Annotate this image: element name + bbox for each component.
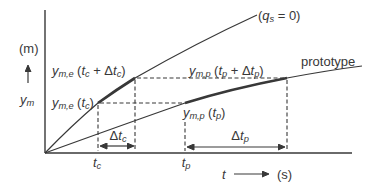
- label-var-sub: m,e: [59, 69, 74, 79]
- model-label-variable: q: [262, 8, 269, 23]
- prototype-label-text: prototype: [301, 54, 355, 69]
- scour-time-scale-figure: (m) ym (qs = 0) prototype ym,e (tc + Δtc…: [0, 0, 374, 195]
- tc-tick-label: tc: [93, 155, 101, 174]
- model-label-equals-zero: = 0): [274, 8, 300, 23]
- tick-var-sub: c: [97, 161, 101, 171]
- y-axis-symbol-label: ym: [20, 92, 34, 111]
- label-close: ): [259, 63, 263, 78]
- ym-p-tp-plus-dtp-label: ym,p (tp + Δtp): [189, 63, 264, 82]
- delta-symbol: Δ: [231, 128, 240, 143]
- tick-var-sub: p: [185, 161, 190, 171]
- ym-e-tc-label: ym,e (tc): [52, 95, 94, 114]
- label-close: ): [121, 63, 125, 78]
- x-axis-symbol-text: t: [222, 167, 226, 182]
- y-axis-symbol-subscript: m: [27, 98, 35, 108]
- model-curve-label: (qs = 0): [258, 8, 300, 27]
- delta-var-sub: c: [122, 134, 126, 144]
- prototype-curve-label: prototype: [301, 54, 355, 69]
- y-axis-unit-label: (m): [19, 41, 39, 56]
- delta-tc-label: Δtc: [110, 128, 127, 147]
- label-close: ): [90, 95, 94, 110]
- delta-tp-label: Δtp: [231, 128, 248, 147]
- label-var-sub: m,p: [196, 69, 211, 79]
- y-axis-unit-text: (m): [19, 41, 39, 56]
- x-axis-unit-text: (s): [277, 167, 292, 182]
- x-axis-unit-label: (s): [277, 167, 292, 182]
- label-plus-delta: + Δ: [227, 63, 251, 78]
- label-plus-delta: + Δ: [90, 63, 114, 78]
- label-var-sub: m,e: [59, 101, 74, 111]
- ym-e-tc-plus-dtc-label: ym,e (tc + Δtc): [52, 63, 126, 82]
- ym-p-tp-label: ym,p (tp): [183, 105, 225, 124]
- label-var-sub: m,p: [190, 111, 205, 121]
- tp-tick-label: tp: [182, 155, 191, 174]
- delta-var-sub: p: [244, 134, 249, 144]
- x-axis-symbol-label: t: [222, 167, 226, 182]
- delta-symbol: Δ: [110, 128, 119, 143]
- label-close: ): [221, 105, 225, 120]
- model-curve: [45, 15, 257, 153]
